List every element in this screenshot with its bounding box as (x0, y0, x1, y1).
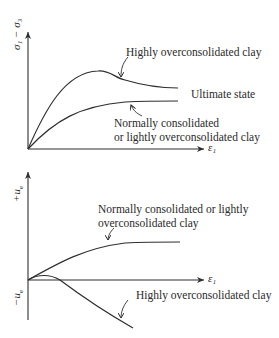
neg-u-text: −u (10, 293, 22, 306)
bottom-label-nc-line2: overconsolidated clay (98, 216, 199, 230)
bottom-label-highly-oc: Highly overconsolidated clay (136, 288, 271, 302)
top-label-nc-line2: or lightly overconsolidated clay (114, 130, 260, 144)
stress-strain-pore-pressure-figure: σ₁ − σ₃ ε₁ Highly overconsolidated clay … (0, 0, 279, 338)
bottom-panel (28, 172, 204, 328)
bottom-y-axis-pos-label: +ue (10, 186, 25, 202)
pos-u-text: +u (10, 189, 22, 202)
bottom-x-axis-label: ε₁ (208, 272, 216, 284)
bottom-label-nc-line1: Normally consolidated or lightly (98, 202, 248, 216)
top-label-highly-oc: Highly overconsolidated clay (126, 45, 261, 59)
bottom-curve-nc (28, 242, 180, 280)
bottom-pointer-highly-oc (121, 300, 128, 318)
bottom-y-axis-neg-label: −ue (10, 290, 25, 306)
top-label-ultimate-state: Ultimate state (191, 87, 255, 101)
neg-u-sub: e (17, 290, 25, 293)
top-label-nc-line1: Normally consolidated (114, 116, 219, 130)
top-y-axis-label: σ₁ − σ₃ (10, 19, 22, 50)
bottom-curve-highly-oc (28, 276, 133, 329)
top-pointer-highly-oc (121, 57, 128, 77)
pos-u-sub: e (17, 186, 25, 189)
top-pointer-nc (131, 105, 142, 116)
